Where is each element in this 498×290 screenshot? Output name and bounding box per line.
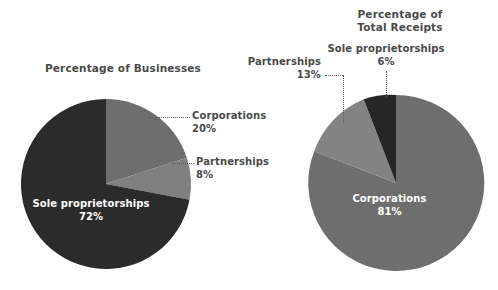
- left-callout-corporations-name: Corporations: [192, 110, 266, 121]
- right-chart-title-line1: Percentage of: [340, 8, 460, 21]
- right-pie: [307, 94, 485, 272]
- right-callout-partnerships-name: Partnerships: [248, 56, 321, 67]
- left-inside-label-sole-proprietorships: Sole proprietorships 72%: [16, 198, 166, 223]
- right-chart-title-line2: Total Receipts: [340, 21, 460, 34]
- right-callout-sole-proprietorships: Sole proprietorships 6%: [322, 43, 450, 68]
- right-leader-partnerships-horizontal: [325, 75, 343, 76]
- left-callout-partnerships-pct: 8%: [196, 169, 269, 182]
- right-callout-partnerships: Partnerships 13%: [243, 56, 321, 81]
- left-callout-corporations: Corporations 20%: [192, 110, 266, 135]
- right-inside-label-pct: 81%: [327, 206, 452, 219]
- pie-chart-figure: Percentage of Businesses Corporations 20…: [0, 0, 498, 290]
- right-callout-sole-pct: 6%: [322, 56, 450, 69]
- right-inside-label-name: Corporations: [352, 193, 426, 204]
- left-inside-label-pct: 72%: [16, 211, 166, 224]
- right-inside-label-corporations: Corporations 81%: [327, 193, 452, 218]
- right-callout-sole-name: Sole proprietorships: [327, 43, 444, 54]
- left-inside-label-name: Sole proprietorships: [32, 198, 149, 209]
- left-callout-corporations-pct: 20%: [192, 123, 266, 136]
- left-pie: [20, 97, 192, 271]
- left-callout-partnerships-name: Partnerships: [196, 156, 269, 167]
- right-callout-partnerships-pct: 13%: [243, 69, 321, 82]
- left-chart-title: Percentage of Businesses: [33, 62, 213, 75]
- left-callout-partnerships: Partnerships 8%: [196, 156, 269, 181]
